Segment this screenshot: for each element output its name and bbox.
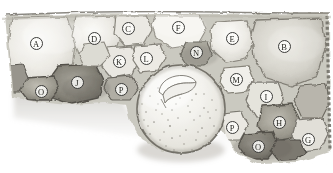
micrograph-plate bbox=[0, 0, 333, 173]
label-g[interactable]: G bbox=[302, 133, 315, 146]
label-m[interactable]: M bbox=[230, 73, 243, 86]
label-b[interactable]: B bbox=[278, 40, 291, 53]
label-d[interactable]: D bbox=[88, 32, 101, 45]
label-l[interactable]: L bbox=[140, 52, 153, 65]
label-a[interactable]: A bbox=[30, 37, 43, 50]
label-f[interactable]: F bbox=[172, 21, 185, 34]
label-o-left[interactable]: O bbox=[35, 85, 48, 98]
label-e[interactable]: E bbox=[226, 32, 239, 45]
label-k[interactable]: K bbox=[113, 55, 126, 68]
label-c[interactable]: C bbox=[122, 22, 135, 35]
label-h[interactable]: H bbox=[273, 116, 286, 129]
label-o-right[interactable]: O bbox=[252, 140, 265, 153]
label-n[interactable]: N bbox=[190, 46, 203, 59]
label-p-right[interactable]: P bbox=[226, 121, 239, 134]
label-i[interactable]: I bbox=[260, 90, 273, 103]
paper-grain bbox=[0, 0, 333, 173]
label-p-left[interactable]: P bbox=[115, 83, 128, 96]
micrograph-figure: ADCFEBKLNMJOPIPHOG bbox=[0, 0, 333, 173]
label-j[interactable]: J bbox=[71, 76, 84, 89]
